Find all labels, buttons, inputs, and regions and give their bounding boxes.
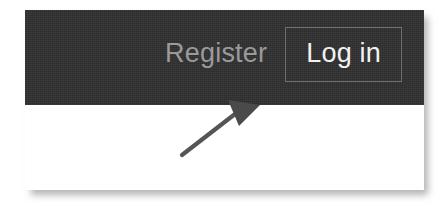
page-card: Register Log in	[25, 10, 424, 190]
register-link[interactable]: Register	[165, 40, 285, 67]
screenshot-canvas: Register Log in	[0, 0, 446, 213]
login-button[interactable]: Log in	[285, 27, 402, 82]
navbar: Register Log in	[25, 10, 424, 105]
page-body	[25, 105, 424, 190]
navbar-actions: Register Log in	[165, 10, 424, 105]
